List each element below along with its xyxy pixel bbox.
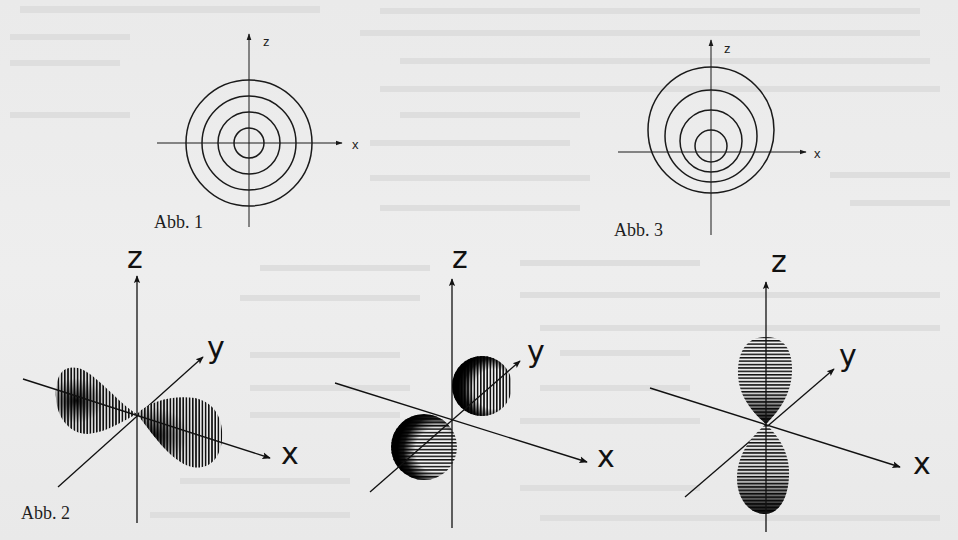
px-z-label: z bbox=[127, 240, 143, 275]
caption-abb2: Abb. 2 bbox=[21, 503, 70, 524]
lobe-back bbox=[452, 356, 512, 416]
py-x-label: x bbox=[597, 439, 615, 474]
pz-x-label: x bbox=[913, 446, 931, 481]
px-y-label: y bbox=[207, 330, 225, 365]
figure-abb2-pz-orbital bbox=[650, 282, 900, 532]
abb3-x-label: x bbox=[814, 146, 821, 161]
abb3-z-label: z bbox=[724, 41, 731, 56]
caption-abb1: Abb. 1 bbox=[154, 212, 203, 233]
pz-z-label: z bbox=[771, 244, 787, 279]
lobe-left bbox=[56, 367, 137, 434]
lobe-lower bbox=[737, 424, 789, 514]
figure-abb1-concentric-circles bbox=[157, 34, 342, 227]
lobe-upper bbox=[738, 337, 792, 424]
caption-abb3: Abb. 3 bbox=[614, 220, 663, 241]
py-y-label: y bbox=[527, 334, 545, 369]
x-axis bbox=[23, 379, 270, 458]
textbook-page: z x z x bbox=[0, 0, 958, 540]
px-x-label: x bbox=[281, 436, 299, 471]
figure-abb3-concentric-circles bbox=[618, 40, 806, 235]
figure-abb2-py-orbital bbox=[335, 279, 587, 528]
figures-canvas: z x z x bbox=[0, 0, 958, 540]
py-z-label: z bbox=[452, 240, 468, 275]
figure-abb2-px-orbital bbox=[23, 276, 270, 523]
abb1-z-label: z bbox=[263, 34, 270, 49]
pz-y-label: y bbox=[839, 338, 857, 373]
lobe-right bbox=[137, 397, 222, 467]
abb1-x-label: x bbox=[352, 137, 359, 152]
